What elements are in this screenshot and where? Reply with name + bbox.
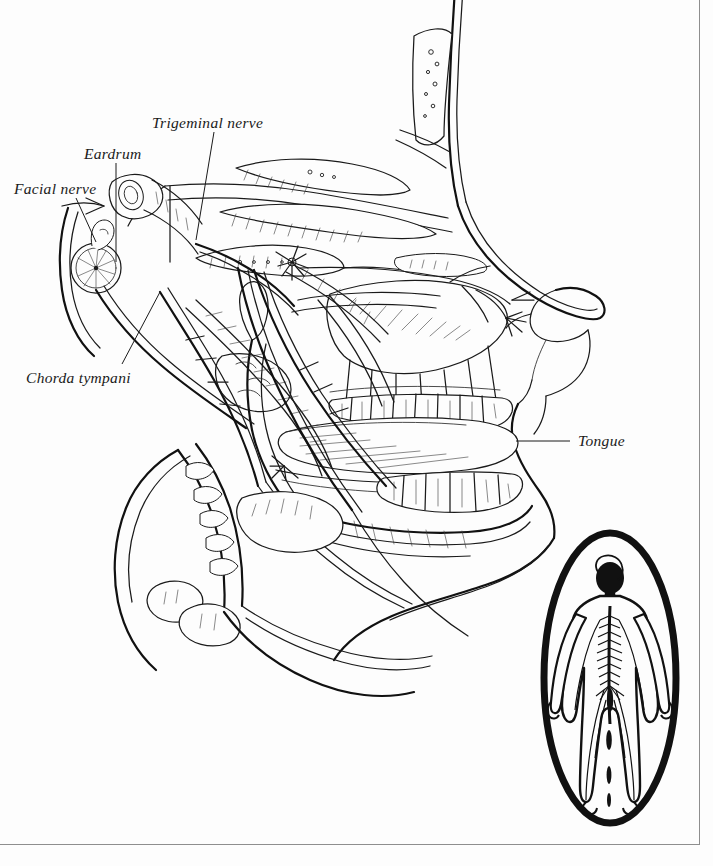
- label-trigeminal-nerve: Trigeminal nerve: [152, 114, 263, 132]
- label-facial-nerve: Facial nerve: [14, 180, 96, 198]
- label-eardrum: Eardrum: [84, 145, 142, 163]
- label-tongue: Tongue: [578, 432, 625, 450]
- label-chorda-tympani: Chorda tympani: [26, 369, 131, 387]
- figure-page: .s { fill:none; stroke:#1a1a1a; stroke-w…: [0, 0, 713, 866]
- body-inset-group: [544, 533, 676, 823]
